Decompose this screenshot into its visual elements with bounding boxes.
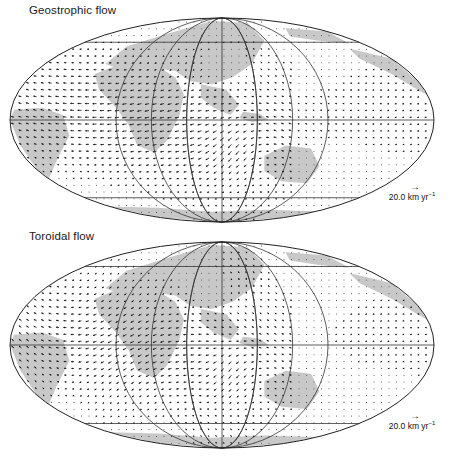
flow-vector <box>298 347 299 348</box>
flow-vector <box>321 300 322 301</box>
flow-vector <box>313 76 314 77</box>
flow-vector <box>156 436 157 437</box>
flow-vector <box>351 293 352 294</box>
flow-vector <box>208 35 209 36</box>
flow-vector <box>223 21 224 22</box>
flow-vector <box>358 409 359 410</box>
flow-vector <box>208 69 209 70</box>
flow-vector <box>133 259 134 260</box>
flow-vector <box>306 35 307 36</box>
flow-vector <box>366 395 367 396</box>
flow-vector <box>306 273 307 274</box>
flow-vector <box>343 375 344 376</box>
flow-vector <box>321 273 322 274</box>
flow-vector <box>208 293 209 294</box>
flow-vector <box>313 388 314 389</box>
flow-vector <box>306 361 307 362</box>
flow-vector <box>358 185 359 186</box>
flow-vector <box>336 55 337 56</box>
flow-vector <box>336 83 337 84</box>
flow-vector <box>313 375 314 376</box>
flow-vector <box>298 286 299 287</box>
flow-vector <box>298 83 299 84</box>
flow-vector <box>313 327 314 328</box>
flow-vector <box>193 252 194 253</box>
flow-vector <box>403 388 404 389</box>
flow-vector <box>313 354 314 355</box>
flow-vector <box>178 28 179 29</box>
flow-vector <box>336 69 337 70</box>
flow-vector <box>291 205 292 206</box>
flow-vector <box>366 368 367 369</box>
flow-vector <box>291 35 292 36</box>
flow-vector <box>381 164 382 165</box>
flow-vector <box>343 157 344 158</box>
flow-vector <box>396 164 397 165</box>
flow-vector <box>223 219 224 220</box>
flow-vector <box>351 307 352 308</box>
flow-vector <box>298 402 299 403</box>
scale-units: km yr <box>408 421 429 431</box>
flow-vector <box>306 55 307 56</box>
flow-vector <box>141 35 142 36</box>
flow-vector <box>201 219 202 220</box>
flow-vector <box>283 259 284 260</box>
flow-vector <box>373 286 374 287</box>
flow-vector <box>306 375 307 376</box>
flow-vector <box>328 286 329 287</box>
flow-vector <box>336 286 337 287</box>
flow-vector <box>328 300 329 301</box>
flow-vector <box>321 327 322 328</box>
flow-vector <box>328 83 329 84</box>
flow-vector <box>321 49 322 50</box>
flow-vector <box>373 381 374 382</box>
flow-vector <box>313 62 314 63</box>
flow-vector <box>343 395 344 396</box>
flow-vector <box>163 212 164 213</box>
flow-vector <box>276 49 277 50</box>
flow-vector <box>351 62 352 63</box>
flow-vector <box>186 28 187 29</box>
flow-vector <box>163 49 164 50</box>
flow-vector <box>216 35 217 36</box>
flow-vector <box>328 157 329 158</box>
flow-vector <box>291 415 292 416</box>
flow-vector <box>118 205 119 206</box>
flow-vector <box>148 252 149 253</box>
flow-vector <box>208 300 209 301</box>
flow-vector <box>193 35 194 36</box>
flow-vector <box>358 300 359 301</box>
flow-vector <box>186 286 187 287</box>
flow-vector <box>231 62 232 63</box>
flow-vector <box>306 286 307 287</box>
flow-vector <box>298 151 299 152</box>
flow-vector <box>403 375 404 376</box>
flow-vector <box>306 76 307 77</box>
flow-vector <box>291 436 292 437</box>
flow-vector <box>313 151 314 152</box>
flow-vector <box>126 205 127 206</box>
flow-vector <box>328 293 329 294</box>
flow-vector <box>171 28 172 29</box>
flow-vector <box>343 361 344 362</box>
flow-vector <box>336 191 337 192</box>
flow-vector <box>298 381 299 382</box>
flow-vector <box>328 361 329 362</box>
flow-vector <box>328 375 329 376</box>
flow-vector <box>343 409 344 410</box>
flow-vector <box>343 151 344 152</box>
flow-vector <box>283 279 284 280</box>
flow-vector <box>366 178 367 179</box>
flow-vector <box>148 436 149 437</box>
flow-vector <box>328 198 329 199</box>
flow-vector <box>336 293 337 294</box>
flow-vector <box>366 381 367 382</box>
flow-vector <box>396 375 397 376</box>
flow-vector <box>186 443 187 444</box>
flow-vector <box>321 205 322 206</box>
flow-vector <box>291 259 292 260</box>
flow-vector <box>261 21 262 22</box>
flow-vector <box>163 28 164 29</box>
flow-vector <box>381 368 382 369</box>
flow-vector <box>193 259 194 260</box>
